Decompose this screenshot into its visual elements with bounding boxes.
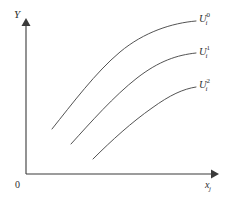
indifference-curve-u0 (52, 21, 196, 129)
curve-label-u1-superscript: 1 (207, 44, 211, 52)
curve-label-u0: Ui0 (199, 14, 212, 25)
curves-group (52, 21, 196, 159)
x-axis-label: xj (205, 180, 211, 190)
y-axis-label: Y (14, 9, 20, 20)
curve-label-u1: Ui1 (199, 47, 212, 58)
curve-label-u2: Ui2 (199, 80, 212, 91)
origin-label: 0 (15, 180, 20, 190)
indifference-curve-u1 (71, 53, 196, 144)
curve-label-u2-subscript: i (206, 85, 208, 93)
indifference-curve-figure: Y xj 0 Ui0 Ui1 Ui2 (0, 0, 234, 201)
indifference-curve-u2 (93, 87, 196, 159)
curve-label-u2-superscript: 2 (207, 77, 211, 85)
x-axis-label-subscript: j (209, 185, 211, 193)
axes-group (22, 18, 220, 179)
y-axis-arrowhead (22, 18, 31, 26)
curve-label-u0-superscript: 0 (207, 11, 211, 19)
curve-label-u0-subscript: i (206, 19, 208, 27)
figure-canvas (0, 0, 234, 201)
curve-label-u1-subscript: i (206, 52, 208, 60)
x-axis-arrowhead (211, 170, 219, 179)
